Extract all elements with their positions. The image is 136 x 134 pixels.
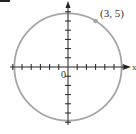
origin-label: 0	[61, 69, 66, 80]
x-axis-label: x	[132, 62, 136, 72]
point-label: (3, 5)	[100, 7, 124, 20]
point-marker	[93, 19, 98, 24]
axes	[10, 1, 131, 125]
circle-graph: 0 (3, 5) x	[0, 0, 136, 134]
